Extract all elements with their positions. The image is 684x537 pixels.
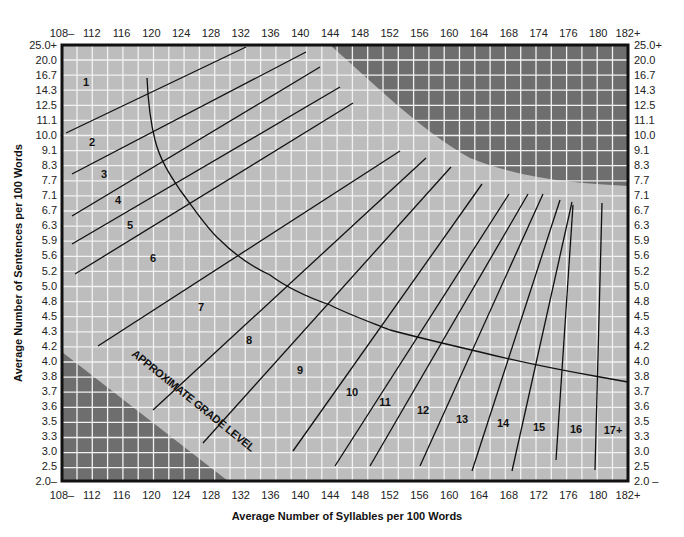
x-tick-bottom: 156 <box>410 489 428 501</box>
y-tick-left: 11.1 <box>36 114 57 126</box>
y-tick-right: 5.0 <box>634 280 649 292</box>
y-tick-left: 6.7 <box>42 204 57 216</box>
grade-level-label: 9 <box>297 364 303 376</box>
y-tick-left: 3.3 <box>42 430 57 442</box>
x-tick-top: 176 <box>559 27 577 39</box>
x-tick-top: 120 <box>142 27 160 39</box>
y-tick-right: 3.6 <box>634 400 649 412</box>
y-tick-right: 14.3 <box>634 84 655 96</box>
y-axis-ticks-right: 25.0+20.016.714.312.511.110.09.18.37.77.… <box>634 39 662 487</box>
y-tick-right: 9.1 <box>634 144 649 156</box>
y-tick-right: 8.3 <box>634 159 649 171</box>
y-tick-right: 3.5 <box>634 415 649 427</box>
y-tick-right: 6.3 <box>634 219 649 231</box>
x-tick-top: 180 <box>589 27 607 39</box>
y-tick-left: 2.0– <box>36 475 58 487</box>
y-axis-ticks-left: 25.0+20.016.714.312.511.110.09.18.37.77.… <box>29 39 58 487</box>
x-tick-bottom: 160 <box>440 489 458 501</box>
x-tick-bottom: 112 <box>83 489 101 501</box>
y-tick-left: 4.0 <box>42 355 57 367</box>
x-tick-bottom: 176 <box>559 489 577 501</box>
y-tick-right: 4.0 <box>634 355 649 367</box>
x-tick-top: 164 <box>470 27 488 39</box>
y-tick-left: 14.3 <box>36 84 57 96</box>
x-tick-top: 128 <box>202 27 220 39</box>
y-tick-left: 4.2 <box>42 340 57 352</box>
y-tick-right: 4.8 <box>634 295 649 307</box>
y-tick-right: 3.3 <box>634 430 649 442</box>
x-tick-top: 156 <box>410 27 428 39</box>
y-tick-left: 10.0 <box>36 129 57 141</box>
x-tick-top: 168 <box>500 27 518 39</box>
y-tick-left: 3.6 <box>42 400 57 412</box>
y-tick-right: 2.5 <box>634 460 649 472</box>
y-tick-right: 4.5 <box>634 310 649 322</box>
y-tick-left: 12.5 <box>36 99 57 111</box>
y-tick-right: 4.2 <box>634 340 649 352</box>
grade-level-label: 1 <box>83 76 89 88</box>
grade-level-label: 2 <box>89 136 95 148</box>
y-tick-right: 6.7 <box>634 204 649 216</box>
x-tick-bottom: 120 <box>142 489 160 501</box>
y-tick-left: 6.3 <box>42 219 57 231</box>
x-tick-bottom: 180 <box>589 489 607 501</box>
y-tick-right: 7.1 <box>634 189 649 201</box>
y-tick-right: 16.7 <box>634 69 655 81</box>
x-tick-top: 174 <box>529 27 547 39</box>
x-tick-bottom: 164 <box>470 489 488 501</box>
x-tick-top: 182+ <box>616 27 641 39</box>
x-tick-bottom: 172 <box>529 489 547 501</box>
x-tick-bottom: 116 <box>113 489 131 501</box>
x-tick-top: 108– <box>50 27 75 39</box>
x-tick-top: 136 <box>261 27 279 39</box>
y-tick-right: 7.7 <box>634 174 649 186</box>
y-tick-right: 2.0 – <box>634 475 659 487</box>
y-tick-right: 5.9 <box>634 234 649 246</box>
y-tick-left: 5.0 <box>42 280 57 292</box>
y-tick-left: 20.0 <box>36 54 57 66</box>
x-tick-bottom: 128 <box>202 489 220 501</box>
y-tick-left: 8.3 <box>42 159 57 171</box>
fry-readability-graph: 108–112116120124128132136140144148152156… <box>0 0 684 537</box>
x-axis-title: Average Number of Syllables per 100 Word… <box>232 510 462 522</box>
grade-level-label: 15 <box>533 421 545 433</box>
x-tick-bottom: 108– <box>50 489 75 501</box>
y-tick-left: 25.0+ <box>29 39 57 51</box>
y-tick-right: 5.6 <box>634 249 649 261</box>
y-tick-right: 4.3 <box>634 325 649 337</box>
y-tick-left: 4.8 <box>42 295 57 307</box>
x-tick-bottom: 132 <box>232 489 250 501</box>
grade-level-label: 8 <box>246 334 252 346</box>
x-tick-bottom: 144 <box>321 489 339 501</box>
grade-level-label: 10 <box>346 386 358 398</box>
y-tick-right: 3.7 <box>634 385 649 397</box>
y-tick-left: 7.7 <box>42 174 57 186</box>
y-tick-left: 5.9 <box>42 234 57 246</box>
y-tick-left: 9.1 <box>42 144 57 156</box>
x-tick-top: 152 <box>381 27 399 39</box>
y-tick-left: 7.1 <box>42 189 57 201</box>
x-tick-bottom: 124 <box>172 489 190 501</box>
y-tick-right: 20.0 <box>634 54 655 66</box>
grade-level-label: 4 <box>115 194 122 206</box>
y-tick-right: 12.5 <box>634 99 655 111</box>
x-tick-bottom: 148 <box>351 489 369 501</box>
x-tick-bottom: 168 <box>500 489 518 501</box>
y-tick-right: 5.2 <box>634 265 649 277</box>
grade-level-label: 14 <box>497 417 510 429</box>
grade-level-label: 13 <box>456 413 468 425</box>
x-tick-top: 112 <box>83 27 101 39</box>
x-axis-ticks-top: 108–112116120124128132136140144148152156… <box>50 27 641 39</box>
y-tick-left: 5.2 <box>42 265 57 277</box>
y-tick-left: 4.3 <box>42 325 57 337</box>
x-tick-top: 160 <box>440 27 458 39</box>
grade-level-label: 17+ <box>604 424 623 436</box>
y-tick-left: 3.8 <box>42 370 57 382</box>
y-tick-right: 10.0 <box>634 129 655 141</box>
x-tick-bottom: 182+ <box>616 489 641 501</box>
x-tick-top: 124 <box>172 27 190 39</box>
y-tick-left: 4.5 <box>42 310 57 322</box>
grade-level-label: 7 <box>198 301 204 313</box>
x-tick-top: 116 <box>113 27 131 39</box>
grade-level-label: 11 <box>379 396 391 408</box>
